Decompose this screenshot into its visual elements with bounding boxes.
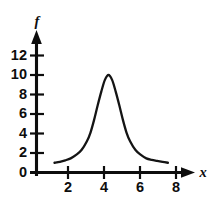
x-axis-title: x (198, 164, 206, 180)
y-tick-label-6: 6 (19, 105, 27, 121)
y-tick-label-2: 2 (19, 144, 27, 160)
y-tick-label-4: 4 (19, 125, 27, 141)
chart-figure: 0 2 4 6 8 10 12 2 4 6 8 f x (0, 0, 216, 202)
y-tick-label-8: 8 (19, 86, 27, 102)
y-tick-label-10: 10 (11, 66, 27, 82)
x-tick-label-4: 4 (100, 179, 108, 195)
y-tick-label-12: 12 (11, 47, 27, 63)
y-tick-labels: 0 2 4 6 8 10 12 (11, 47, 27, 180)
x-tick-labels: 2 4 6 8 (64, 179, 180, 195)
x-tick-label-2: 2 (64, 179, 72, 195)
x-tick-label-6: 6 (136, 179, 144, 195)
x-axis-group (30, 167, 195, 178)
function-plot: 0 2 4 6 8 10 12 2 4 6 8 f x (0, 0, 216, 202)
y-tick-label-0: 0 (19, 164, 27, 180)
x-axis-arrowhead (181, 167, 195, 178)
y-axis-title: f (35, 13, 42, 29)
bell-curve (55, 75, 168, 163)
x-tick-label-8: 8 (172, 179, 180, 195)
y-axis-group (31, 30, 42, 176)
y-axis-arrowhead (31, 30, 42, 44)
